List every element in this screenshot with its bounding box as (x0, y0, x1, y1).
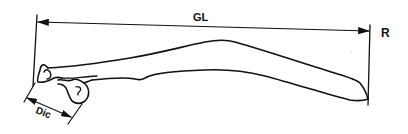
right-reference-line (368, 25, 370, 105)
bone-lower-edge (92, 70, 368, 101)
greatest-length-label: GL (193, 11, 209, 23)
bone-head-mark (76, 87, 81, 95)
bone-articular-notch (44, 70, 51, 79)
side-label: R (381, 26, 390, 40)
bone-neck-line (62, 76, 97, 78)
left-reference-line (33, 15, 37, 86)
bone-lower-neck (84, 80, 92, 83)
dic-label: Dic (34, 104, 53, 120)
bone-measurement-diagram: GL R Dic (0, 0, 408, 134)
dic-right-tick (68, 104, 82, 124)
greatest-length-arrow (38, 22, 369, 31)
speck-mark (350, 51, 351, 52)
